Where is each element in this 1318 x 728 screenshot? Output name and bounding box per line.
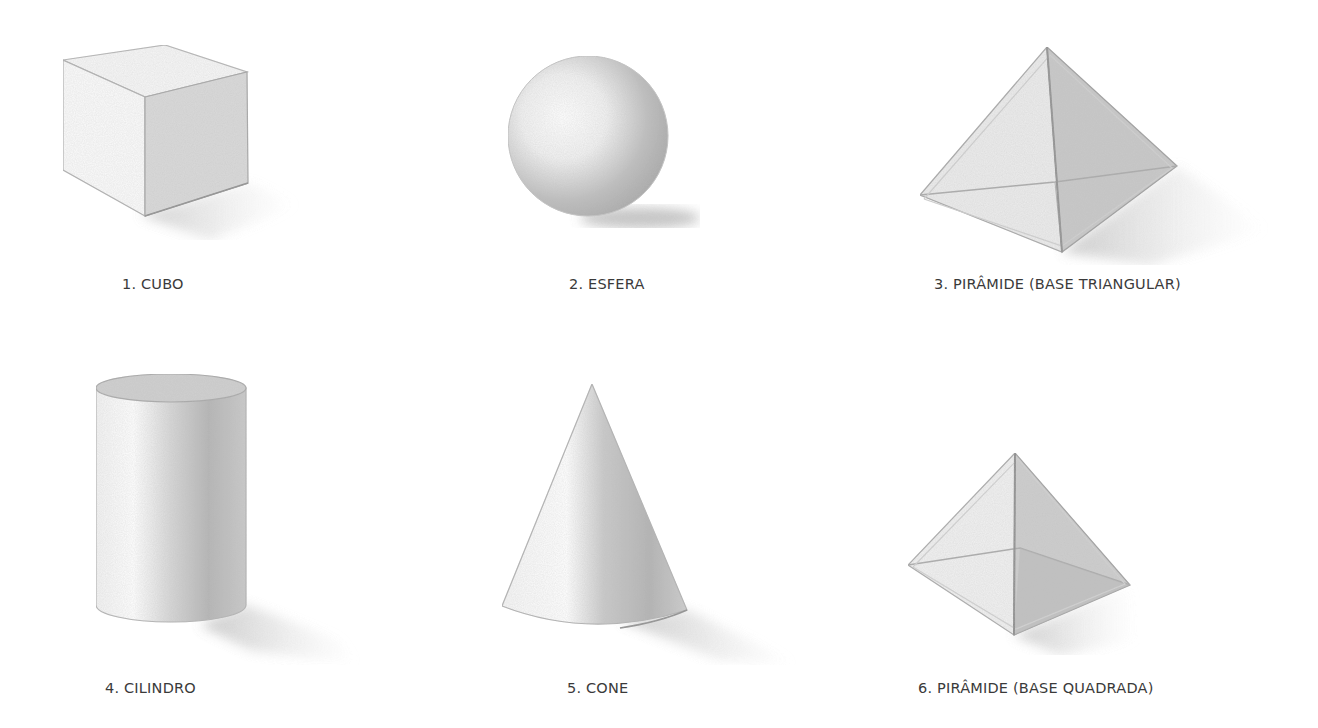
- triangular-pyramid-drawing: [920, 47, 1270, 265]
- cone-drawing: [502, 384, 800, 665]
- cube-drawing: [63, 45, 300, 240]
- figure-label-cone: 5. CONE: [567, 680, 628, 696]
- figure-label-sphere: 2. ESFERA: [569, 276, 645, 292]
- figure-label-square-pyramid: 6. PIRÂMIDE (BASE QUADRADA): [918, 680, 1154, 696]
- cylinder-drawing: [96, 374, 360, 665]
- square-pyramid-drawing: [908, 453, 1140, 655]
- figure-label-cube: 1. CUBO: [122, 276, 184, 292]
- sphere-drawing: [508, 56, 700, 228]
- geometric-shapes-sheet: 1. CUBO 2. ESFERA 3. PIRÂMIDE (BASE TRIA…: [0, 0, 1318, 728]
- figure-label-cylinder: 4. CILINDRO: [105, 680, 196, 696]
- shapes-drawing: [0, 0, 1318, 728]
- figure-label-triangular-pyramid: 3. PIRÂMIDE (BASE TRIANGULAR): [934, 276, 1181, 292]
